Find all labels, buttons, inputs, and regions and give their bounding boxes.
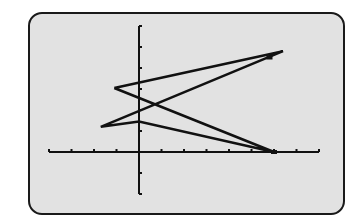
cursor-marks [267, 56, 278, 155]
plotted-path [101, 51, 283, 152]
graph-plot [0, 0, 360, 224]
